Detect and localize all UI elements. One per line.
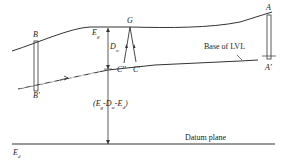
point-label-C-prime: C' <box>133 66 140 74</box>
well-B <box>34 41 38 91</box>
diagram-canvas <box>0 0 291 166</box>
label-Dw: Dw <box>110 43 119 53</box>
point-label-B-prime: B' <box>33 92 40 100</box>
arrow-up-icon <box>106 28 110 32</box>
label-head-expression: (Eg-Dw-Ed) <box>93 100 128 110</box>
point-label-A: A <box>266 4 271 12</box>
label-base-of-lvl: Base of LVL <box>204 43 245 51</box>
point-label-B: B <box>33 31 38 39</box>
point-label-C-double-prime: C'' <box>117 66 126 74</box>
arrow-up-icon <box>125 44 128 48</box>
label-Ed: Ed <box>13 149 20 159</box>
well-A <box>267 15 271 59</box>
ray-G-C-prime <box>130 27 136 62</box>
base-of-lvl-pointer <box>237 55 242 60</box>
ray-G-C-double-prime <box>124 27 130 63</box>
label-datum-plane: Datum plane <box>185 134 226 142</box>
flow-arrow-icon <box>60 76 68 80</box>
arrow-down-icon <box>106 65 110 69</box>
label-Eg: Eg <box>92 29 99 39</box>
point-label-G: G <box>127 17 133 25</box>
arrow-down-icon <box>106 140 110 144</box>
point-label-A-prime: A' <box>265 64 272 72</box>
